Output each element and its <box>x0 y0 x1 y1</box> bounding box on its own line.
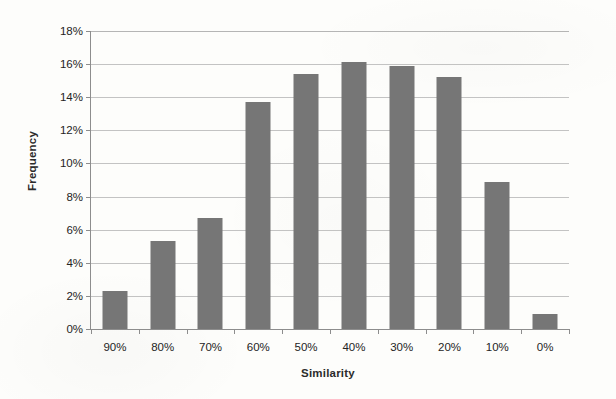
bar <box>198 218 223 329</box>
bar-slot <box>521 31 569 329</box>
y-axis-tick-label: 0% <box>37 323 83 335</box>
y-axis-tick-label: 18% <box>37 25 83 37</box>
y-axis-tick-label: 6% <box>37 224 83 236</box>
bar <box>102 291 127 329</box>
bar <box>485 182 510 329</box>
bar-chart: Frequency 0%2%4%6%8%10%12%14%16%18% 90%8… <box>0 0 616 399</box>
bar <box>437 77 462 329</box>
y-axis-tick-label: 4% <box>37 257 83 269</box>
bar-slot <box>378 31 426 329</box>
bar-slot <box>187 31 235 329</box>
bar-slot <box>91 31 139 329</box>
x-axis-tick <box>330 329 331 334</box>
x-axis-tick <box>426 329 427 334</box>
y-axis-tick-label: 12% <box>37 124 83 136</box>
bar-slot <box>473 31 521 329</box>
x-axis-tick <box>282 329 283 334</box>
y-axis-tick-label: 2% <box>37 290 83 302</box>
x-axis-tick-label: 0% <box>515 341 575 353</box>
y-axis-tick-label: 14% <box>37 91 83 103</box>
bar-slot <box>330 31 378 329</box>
x-axis-tick <box>569 329 570 334</box>
bar <box>533 314 558 329</box>
bars-group <box>91 31 569 329</box>
bar <box>294 74 319 329</box>
y-axis-tick-label: 8% <box>37 191 83 203</box>
bar-slot <box>426 31 474 329</box>
x-axis-tick <box>521 329 522 334</box>
y-axis-tick-label: 16% <box>37 58 83 70</box>
x-axis-tick <box>473 329 474 334</box>
bar <box>341 62 366 329</box>
bar-slot <box>139 31 187 329</box>
x-axis-tick <box>139 329 140 334</box>
bar-slot <box>282 31 330 329</box>
y-axis-tick-label: 10% <box>37 157 83 169</box>
plot-area: 0%2%4%6%8%10%12%14%16%18% 90%80%70%60%50… <box>90 31 569 330</box>
x-axis-tick <box>91 329 92 334</box>
bar-slot <box>234 31 282 329</box>
x-axis-tick <box>378 329 379 334</box>
x-axis-tick <box>187 329 188 334</box>
x-axis-title: Similarity <box>88 367 568 379</box>
bar <box>389 66 414 329</box>
bar <box>246 102 271 329</box>
bar <box>150 241 175 329</box>
x-axis-tick <box>234 329 235 334</box>
